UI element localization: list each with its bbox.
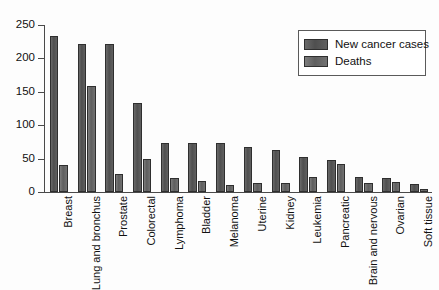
bar	[105, 44, 114, 192]
x-axis-label: Breast	[63, 196, 74, 228]
bar	[327, 160, 336, 192]
y-axis-tick-label: 200	[16, 53, 35, 65]
bar-group	[133, 25, 151, 192]
legend-swatch-icon-new-cancer-cases	[304, 39, 328, 50]
chart-legend: New cancer cases Deaths	[298, 30, 426, 76]
bar	[50, 36, 59, 192]
bar	[161, 143, 170, 192]
bar	[115, 174, 124, 192]
bar-chart: 050100150200250 BreastLung and bronchusP…	[0, 0, 439, 290]
bar-group	[78, 25, 96, 192]
x-axis-label: Leukemia	[312, 196, 323, 244]
y-axis-tick-label: 250	[16, 19, 35, 31]
bar-group	[188, 25, 206, 192]
x-axis-label: Soft tissue	[423, 196, 434, 247]
bar	[244, 147, 253, 192]
bar	[59, 165, 68, 192]
bar	[392, 182, 401, 192]
bar	[364, 183, 373, 192]
bar-group	[272, 25, 290, 192]
bar	[299, 157, 308, 192]
bar	[87, 86, 96, 192]
bar-group	[105, 25, 123, 192]
bar-group	[50, 25, 68, 192]
x-axis-labels: BreastLung and bronchusProstateColorecta…	[44, 196, 432, 290]
x-axis-label: Uterine	[257, 196, 268, 231]
bar	[382, 178, 391, 192]
legend-label-deaths: Deaths	[335, 56, 371, 68]
x-axis-label: Prostate	[118, 196, 129, 237]
bar	[253, 183, 262, 192]
x-axis-label: Lymphoma	[174, 196, 185, 250]
bar	[337, 164, 346, 192]
x-axis-label: Melanoma	[229, 196, 240, 247]
x-axis-label: Lung and bronchus	[91, 196, 102, 290]
bar	[410, 184, 419, 192]
bar	[420, 189, 429, 192]
legend-swatch-icon-deaths	[304, 56, 328, 67]
bar	[198, 181, 207, 192]
bar	[143, 159, 152, 192]
bar	[355, 177, 364, 192]
bar	[133, 103, 142, 192]
x-axis-label: Colorectal	[146, 196, 157, 246]
x-axis-line	[44, 192, 432, 193]
bar-group	[161, 25, 179, 192]
y-axis-tick-label: 50	[22, 153, 35, 165]
bar	[78, 44, 87, 192]
bar	[170, 178, 179, 192]
bar	[226, 185, 235, 192]
x-axis-label: Bladder	[201, 196, 212, 234]
bar	[216, 143, 225, 192]
legend-item-new-cancer-cases: New cancer cases	[304, 36, 419, 53]
bar	[309, 177, 318, 192]
bar-group	[244, 25, 262, 192]
bar-group	[216, 25, 234, 192]
y-axis-tick-label: 0	[29, 186, 35, 198]
bar	[272, 150, 281, 192]
y-axis-tick	[38, 192, 44, 193]
x-axis-label: Pancreatic	[340, 196, 351, 248]
x-axis-label: Brain and nervous	[368, 196, 379, 285]
x-axis-label: Ovarian	[395, 196, 406, 235]
legend-label-new-cancer-cases: New cancer cases	[335, 39, 429, 51]
y-axis-tick-label: 100	[16, 119, 35, 131]
bar	[188, 143, 197, 192]
x-axis-label: Kidney	[285, 196, 296, 230]
bar	[281, 183, 290, 192]
legend-item-deaths: Deaths	[304, 53, 419, 70]
y-axis-tick-label: 150	[16, 86, 35, 98]
